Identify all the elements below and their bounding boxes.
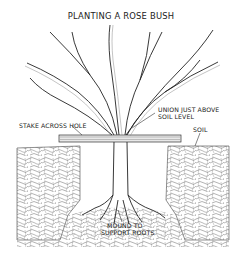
label-soil: SOIL [193, 126, 207, 133]
label-mound-line1: MOUND TO [107, 222, 143, 229]
stake [59, 135, 181, 142]
label-union-line1: UNION JUST ABOVE [158, 106, 219, 113]
label-stake-across-hole: STAKE ACROSS HOLE [19, 122, 86, 129]
rose-planting-diagram: PLANTING A ROSE BUSH STAKE ACROSS HOLE U… [0, 0, 242, 256]
label-union-line2: SOIL LEVEL [158, 113, 194, 120]
label-mound-line2: SUPPORT ROOTS [101, 229, 154, 236]
diagram-title: PLANTING A ROSE BUSH [0, 11, 242, 21]
